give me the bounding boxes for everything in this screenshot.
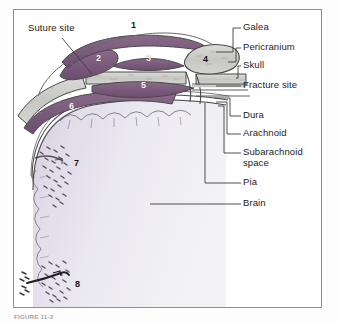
callout-number-1: 1	[131, 20, 136, 30]
label-fracture-site: Fracture site	[243, 80, 297, 91]
callout-number-6: 6	[69, 101, 74, 111]
callout-number-5: 5	[141, 80, 146, 90]
figure-caption: FIGURE 11-2	[14, 313, 53, 320]
label-arachnoid: Arachnoid	[243, 128, 287, 139]
callout-number-2: 2	[96, 53, 101, 63]
callout-number-8: 8	[75, 279, 80, 289]
label-pericranium: Pericranium	[243, 42, 295, 53]
label-dura: Dura	[243, 110, 264, 121]
label-pia: Pia	[243, 177, 257, 188]
callout-number-3: 3	[146, 53, 151, 63]
callout-number-4: 4	[203, 54, 208, 64]
label-skull: Skull	[243, 60, 264, 71]
label-brain: Brain	[243, 198, 266, 209]
callout-number-7: 7	[74, 158, 79, 168]
figure-root: Suture site Galea Pericranium Skull Frac…	[0, 0, 340, 323]
label-suture-site: Suture site	[28, 23, 75, 34]
label-subarachnoid-space: Subarachnoid space	[243, 147, 317, 168]
label-galea: Galea	[243, 22, 269, 33]
